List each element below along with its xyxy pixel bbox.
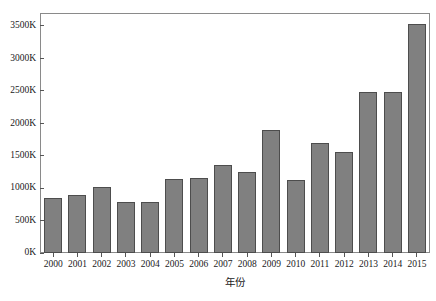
bar-slot [235,14,259,253]
bar-2010 [287,180,305,253]
bar-slot [90,14,114,253]
bar-slot [284,14,308,253]
y-axis-tick-label: 0K [24,248,40,258]
bar-slot [308,14,332,253]
x-axis-tick-label: 2012 [332,258,356,272]
bar-slot [211,14,235,253]
x-axis-tick-label: 2003 [114,258,138,272]
x-axis-tick-mark [77,253,78,257]
bar-2011 [311,143,329,253]
x-axis-tick-label: 2015 [405,258,429,272]
y-axis-tick-label: 2500K [10,86,40,96]
x-axis-tick-label: 2000 [41,258,65,272]
bar-slot [41,14,65,253]
bar-slot [332,14,356,253]
y-axis-tick-label: 1000K [10,183,40,193]
x-axis-tick-label: 2010 [284,258,308,272]
bar-2000 [44,198,62,253]
bar-2005 [165,179,183,253]
x-axis-tick-mark [271,253,272,257]
bar-2007 [214,165,232,253]
bar-2015 [408,24,426,253]
x-axis-tick-label: 2009 [259,258,283,272]
y-axis-tick-label: 3500K [10,21,40,31]
bar-chart: 0K500K1000K1500K2000K2500K3000K3500K 200… [0,0,436,301]
x-axis-tick-label: 2014 [381,258,405,272]
x-axis-tick-mark [392,253,393,257]
x-axis-tick-label: 2005 [162,258,186,272]
x-axis-tick-mark [247,253,248,257]
x-axis-tick-label: 2013 [356,258,380,272]
bar-2006 [190,178,208,253]
x-axis-tick-label: 2007 [211,258,235,272]
bar-2014 [384,92,402,253]
x-axis-tick-mark [174,253,175,257]
bar-2004 [141,202,159,253]
x-axis-tick-mark [125,253,126,257]
bar-2003 [117,202,135,253]
x-axis-tick-label: 2004 [138,258,162,272]
y-axis-tick-label: 500K [15,216,40,226]
bar-2009 [262,130,280,253]
x-axis-tick-mark [344,253,345,257]
x-axis-tick-mark [295,253,296,257]
x-axis-tick-mark [416,253,417,257]
x-axis-tick-labels: 2000200120022003200420052006200720082009… [41,258,429,272]
x-axis-tick-mark [198,253,199,257]
bar-slot [187,14,211,253]
bar-slot [405,14,429,253]
x-axis-tick-mark [368,253,369,257]
bar-slot [381,14,405,253]
bar-2013 [359,92,377,253]
bar-slot [65,14,89,253]
x-axis-tick-label: 2002 [90,258,114,272]
y-axis-tick-label: 3000K [10,54,40,64]
bar-slot [356,14,380,253]
y-axis: 0K500K1000K1500K2000K2500K3000K3500K [0,0,40,301]
x-axis-tick-mark [222,253,223,257]
x-axis-tick-label: 2011 [308,258,332,272]
x-axis-tick-label: 2001 [65,258,89,272]
x-axis-tick-label: 2008 [235,258,259,272]
x-axis-title: 年份 [41,276,429,289]
bar-2001 [68,195,86,253]
x-axis-tick-mark [101,253,102,257]
bars-container [41,14,429,253]
bar-slot [138,14,162,253]
y-axis-tick-label: 2000K [10,119,40,129]
x-axis-tick-mark [53,253,54,257]
x-axis-tick-label: 2006 [187,258,211,272]
x-axis-tick-mark [319,253,320,257]
y-axis-tick-label: 1500K [10,151,40,161]
bar-2002 [93,187,111,253]
bar-2012 [335,152,353,253]
bar-2008 [238,172,256,253]
bar-slot [259,14,283,253]
bar-slot [162,14,186,253]
bar-slot [114,14,138,253]
x-axis-tick-mark [150,253,151,257]
